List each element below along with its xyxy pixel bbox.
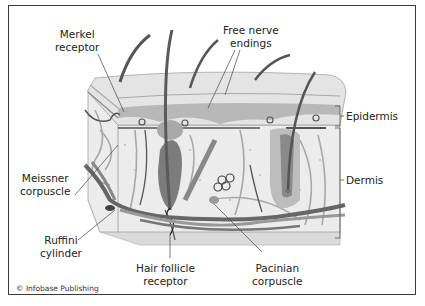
label-hair-follicle-receptor: Hair follicle receptor <box>136 262 195 287</box>
label-epidermis: Epidermis <box>346 110 398 123</box>
label-ruffini-cylinder: Ruffini cylinder <box>40 234 82 259</box>
label-meissner-corpuscle: Meissner corpuscle <box>20 172 70 197</box>
copyright-credit: © Infobase Publishing <box>16 284 99 293</box>
pacinian-corpuscle <box>209 196 219 204</box>
label-merkel-receptor: Merkel receptor <box>55 28 99 53</box>
epidermis-layer <box>88 72 346 125</box>
label-free-nerve-endings: Free nerve endings <box>223 24 279 49</box>
label-pacinian-corpuscle: Pacinian corpuscle <box>252 262 302 287</box>
label-dermis: Dermis <box>346 174 383 187</box>
